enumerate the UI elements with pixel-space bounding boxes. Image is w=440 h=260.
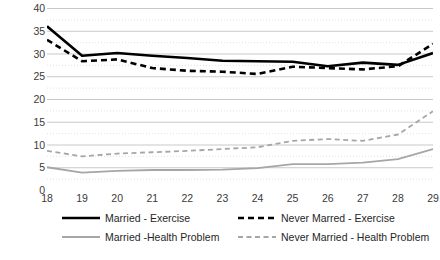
y-axis: 0510152025303540 xyxy=(0,0,45,200)
y-tick-label: 40 xyxy=(1,3,45,13)
plot-svg xyxy=(47,8,433,190)
x-tick-label: 28 xyxy=(383,192,413,204)
x-tick-label: 23 xyxy=(207,192,237,204)
x-tick-label: 21 xyxy=(137,192,167,204)
legend-swatch-icon xyxy=(238,231,276,243)
x-tick-label: 24 xyxy=(243,192,273,204)
y-tick-label: 25 xyxy=(1,71,45,81)
x-axis: 181920212223242526272829 xyxy=(47,192,433,208)
legend-swatch-icon xyxy=(62,212,100,224)
legend-item[interactable]: Married -Health Problem xyxy=(62,229,219,245)
legend-label: Married -Health Problem xyxy=(105,231,219,243)
line-chart: 0510152025303540 18192021222324252627282… xyxy=(0,0,440,260)
series-line-1 xyxy=(47,40,433,74)
legend-label: Never Marred - Exercise xyxy=(281,212,395,224)
gridlines xyxy=(47,9,433,191)
legend-item[interactable]: Never Married - Health Problem xyxy=(238,229,429,245)
plot-area xyxy=(47,8,433,190)
y-tick-label: 35 xyxy=(1,26,45,36)
y-tick-label: 15 xyxy=(1,117,45,127)
legend-item[interactable]: Never Marred - Exercise xyxy=(238,210,395,226)
x-tick-label: 19 xyxy=(67,192,97,204)
x-tick-label: 20 xyxy=(102,192,132,204)
legend-label: Never Married - Health Problem xyxy=(281,231,429,243)
chart-legend: Married - ExerciseNever Marred - Exercis… xyxy=(0,210,440,256)
y-tick-label: 5 xyxy=(1,162,45,172)
x-tick-label: 18 xyxy=(32,192,62,204)
legend-swatch-icon xyxy=(62,231,100,243)
series-line-2 xyxy=(47,149,433,173)
x-tick-label: 29 xyxy=(418,192,440,204)
x-tick-label: 26 xyxy=(313,192,343,204)
legend-swatch-icon xyxy=(238,212,276,224)
x-tick-label: 25 xyxy=(278,192,308,204)
legend-item[interactable]: Married - Exercise xyxy=(62,210,190,226)
y-tick-label: 30 xyxy=(1,49,45,59)
y-tick-label: 20 xyxy=(1,94,45,104)
legend-label: Married - Exercise xyxy=(105,212,190,224)
x-tick-label: 27 xyxy=(348,192,378,204)
y-tick-label: 10 xyxy=(1,140,45,150)
x-tick-label: 22 xyxy=(172,192,202,204)
